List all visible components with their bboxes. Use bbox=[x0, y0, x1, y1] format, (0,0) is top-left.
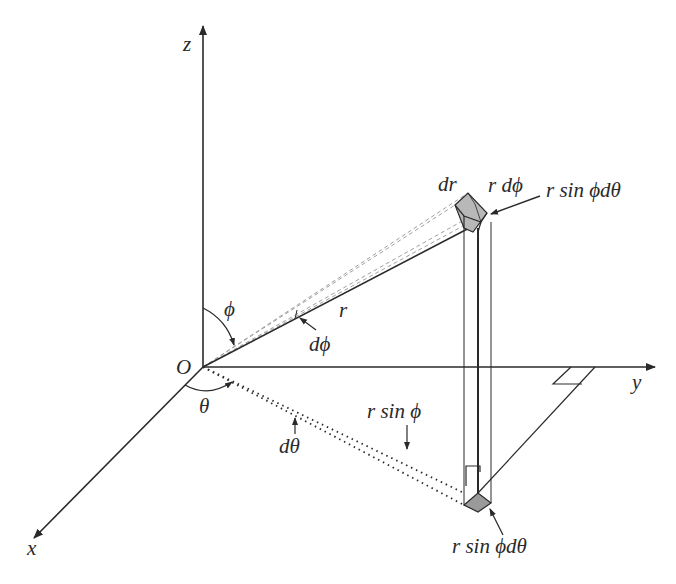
top-r-sin-phi-dtheta-label: r sin ϕdθ bbox=[546, 178, 621, 202]
z-axis-label: z bbox=[182, 32, 191, 56]
theta-label: θ bbox=[199, 394, 209, 418]
volume-element-box bbox=[455, 193, 487, 232]
origin-label: O bbox=[176, 355, 191, 379]
r-sin-phi-label: r sin ϕ bbox=[367, 399, 421, 423]
spherical-coordinates-diagram: z y x O ϕ θ dϕ dθ r dr r dϕ r sin ϕdθ r … bbox=[0, 0, 676, 584]
dr-label: dr bbox=[438, 172, 458, 196]
y-axis-label: y bbox=[630, 370, 642, 394]
ray-fan bbox=[203, 193, 487, 367]
x-axis bbox=[34, 367, 203, 538]
theta-arc bbox=[185, 382, 232, 391]
bottom-element-pointer bbox=[490, 509, 503, 535]
projection-lines bbox=[203, 367, 464, 505]
dtheta-label: dθ bbox=[279, 434, 300, 458]
patch-to-y-axis-line bbox=[478, 367, 595, 493]
base-patch bbox=[464, 493, 491, 512]
phi-label: ϕ bbox=[224, 297, 235, 321]
r-label: r bbox=[339, 298, 348, 322]
dphi-label: dϕ bbox=[309, 332, 331, 356]
r-dphi-label: r dϕ bbox=[488, 173, 523, 197]
bottom-r-sin-phi-dtheta-label: r sin ϕdθ bbox=[452, 534, 527, 558]
x-axis-label: x bbox=[26, 536, 37, 560]
r-ray bbox=[203, 225, 475, 367]
top-element-pointer bbox=[491, 196, 540, 214]
projection-column bbox=[464, 222, 491, 505]
